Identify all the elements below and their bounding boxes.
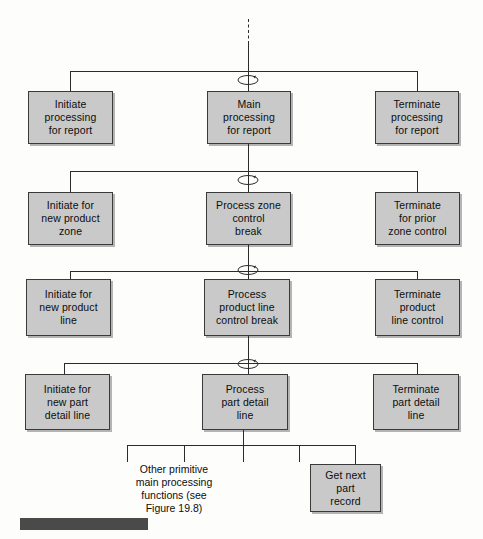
module-terminate-product-line-control[interactable]: Terminate product line control [375,279,460,336]
module-label: Main processing for report [211,98,287,137]
module-process-zone-control-break[interactable]: Process zone control break [206,192,291,245]
level-1-drop-left [70,71,71,91]
module-terminate-for-prior-zone-control[interactable]: Terminate for prior zone control [375,192,460,245]
leaf-level-trunk-line [243,430,244,446]
module-process-product-line-control-break[interactable]: Process product line control break [204,279,290,336]
figure-caption-bar [20,518,148,530]
module-terminate-processing-for-report[interactable]: Terminate processing for report [375,91,459,144]
other-primitive-functions-annotation: Other primitive main processing function… [122,463,226,515]
iteration-loop-symbol [237,174,259,185]
level-1-bus [70,71,417,72]
leaf-stub-5 [355,445,356,464]
module-label: Terminate product line control [379,288,456,327]
level-1-drop-right [417,71,418,91]
module-label: Process product line control break [208,288,286,327]
module-initiate-for-new-product-line[interactable]: Initiate for new product line [26,279,111,336]
level-2-drop-right [417,171,418,192]
module-label: Terminate part detail line [377,383,455,422]
leaf-level-bus [127,445,355,446]
module-main-processing-for-report[interactable]: Main processing for report [207,91,291,144]
level-2-trunk-line [248,144,249,172]
iteration-loop-symbol [237,358,259,369]
leaf-stub-3 [243,445,244,462]
structure-chart-figure: Initiate processing for report Main proc… [0,0,483,539]
module-initiate-for-new-part-detail-line[interactable]: Initiate for new part detail line [25,374,110,430]
root-trunk-line [248,43,249,72]
module-label: Process part detail line [206,383,284,422]
module-label: Initiate processing for report [32,98,109,137]
module-process-part-detail-line[interactable]: Process part detail line [202,374,288,430]
leaf-stub-2 [184,445,185,462]
module-label: Initiate for new product line [30,288,107,327]
module-initiate-for-new-product-zone[interactable]: Initiate for new product zone [28,192,113,245]
module-label: Initiate for new product zone [32,199,109,238]
module-label: Initiate for new part detail line [29,383,106,422]
module-get-next-part-record[interactable]: Get next part record [310,464,381,512]
module-label: Terminate for prior zone control [379,199,456,238]
module-label: Process zone control break [210,199,287,238]
leaf-stub-1 [127,445,128,462]
module-label: Terminate processing for report [379,98,455,137]
module-label: Get next part record [314,469,377,508]
module-initiate-processing-for-report[interactable]: Initiate processing for report [28,91,113,144]
iteration-loop-symbol [237,264,259,275]
level-2-bus [70,171,417,172]
leaf-stub-4 [299,445,300,462]
iteration-loop-symbol [237,74,259,85]
level-2-drop-left [70,171,71,192]
dashed-continuation-line [248,19,249,44]
module-terminate-part-detail-line[interactable]: Terminate part detail line [373,374,459,430]
